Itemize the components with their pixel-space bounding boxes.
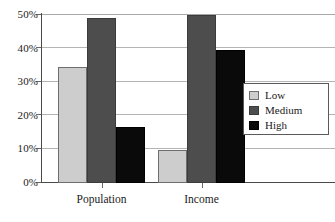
bar-income-low [158,150,187,183]
legend-swatch-icon [249,106,259,115]
x-axis-tick-label-population: Population [77,193,127,206]
y-axis-tick-label: 50% [2,9,38,20]
y-axis-labels: 0%10%20%30%40%50% [0,0,38,222]
bar-income-medium [187,15,216,183]
legend-item-high[interactable]: High [249,118,323,132]
y-axis-tick-label: 30% [2,76,38,87]
x-axis-tick-mark [202,183,203,188]
legend-item-medium[interactable]: Medium [249,103,323,117]
bar-population-high [116,127,145,183]
x-axis-tick-mark [102,183,103,188]
bar-chart: 0%10%20%30%40%50% PopulationIncome LowMe… [0,0,335,222]
legend-label: High [265,119,287,131]
y-axis-tick-label: 0% [2,177,38,188]
legend-swatch-icon [249,91,259,100]
bar-income-high [216,50,245,183]
legend-label: Low [265,89,285,101]
legend-item-low[interactable]: Low [249,88,323,102]
legend-swatch-icon [249,121,259,130]
bar-population-low [58,67,87,183]
x-axis-tick-label-income: Income [184,193,218,206]
y-axis-tick-label: 40% [2,42,38,53]
chart-legend: LowMediumHigh [243,83,329,135]
y-axis-tick-label: 10% [2,143,38,154]
bar-population-medium [87,18,116,183]
legend-label: Medium [265,104,302,116]
y-axis-tick-label: 20% [2,109,38,120]
